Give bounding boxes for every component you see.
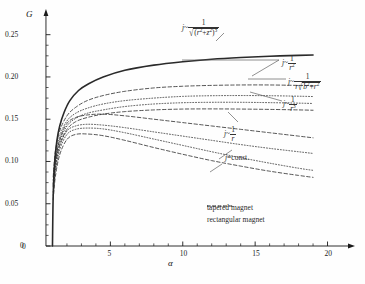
- curves-layer: [52, 55, 313, 246]
- fraction-denominator: r: [230, 135, 236, 143]
- axes-layer: [44, 9, 355, 248]
- chart-curve: [53, 128, 313, 195]
- x-tick-label: 5: [107, 249, 111, 258]
- chart-figure: G α j~ 1 √(r2+z2)3 j~ 1 r2 j~ 1 r√b2+r2 …: [0, 0, 365, 284]
- leader-line: [182, 60, 279, 76]
- y-tick-label: 0.25: [5, 30, 18, 39]
- legend-swatch-dotted: [207, 203, 233, 209]
- fraction-denominator: r2: [288, 64, 296, 72]
- legend-entry-rectangular: rectangular magnet: [207, 215, 265, 224]
- x-tick-label: 15: [252, 249, 260, 258]
- fraction: 1 r3: [289, 96, 297, 113]
- annotation-inv-r3: j~ 1 r3: [283, 96, 297, 113]
- legend: tapered magnet rectangular magnet: [207, 203, 265, 224]
- annotation-inv-r2: j~ 1 r2: [282, 55, 296, 72]
- annotation-inv-r-sqrt-b2r2: j~ 1 r√b2+r2: [288, 73, 321, 91]
- x-tick-label: 20: [325, 249, 333, 258]
- y-tick-label: 0.15: [5, 114, 18, 123]
- legend-label-rectangular: rectangular magnet: [207, 215, 265, 224]
- radical-sign: √: [298, 81, 302, 92]
- annotation-inv-sqrt-r2z2-cubed: j~ 1 √(r2+z2)3: [182, 19, 219, 37]
- chart-curve: [53, 96, 313, 181]
- radical-argument: b2+r2: [302, 82, 320, 91]
- chart-curve: [53, 134, 313, 200]
- chart-curve: [53, 114, 313, 185]
- fraction-denominator: √(r2+z2)3: [188, 28, 219, 37]
- fraction-denominator: r3: [289, 105, 297, 113]
- annotation-const: j=const.: [225, 153, 249, 162]
- fraction: 1 r2: [288, 55, 296, 72]
- radical-argument: (r2+z2)3: [193, 28, 218, 37]
- leader-line: [250, 92, 282, 101]
- y-tick-label: 0.10: [5, 156, 18, 165]
- y-tick-label: 0.20: [5, 72, 18, 81]
- chart-curve: [53, 109, 313, 187]
- x-axis-title: α: [168, 258, 173, 268]
- annotation-inv-r: j~ 1 r: [224, 126, 236, 143]
- leader-line: [210, 164, 222, 172]
- radical-sign: √: [189, 27, 193, 38]
- chart-curve: [52, 55, 313, 246]
- x-tick-label: 10: [180, 249, 188, 258]
- leader-line: [228, 112, 238, 122]
- y-tick-label: 0.05: [5, 199, 18, 208]
- fraction: 1 √(r2+z2)3: [188, 19, 219, 37]
- chart-canvas: [0, 0, 365, 284]
- fraction: 1 r: [230, 126, 236, 143]
- y-axis-title: G: [26, 9, 33, 19]
- x-tick-label: 0: [22, 242, 26, 251]
- leader-lines-layer: [182, 33, 286, 172]
- fraction: 1 r√b2+r2: [294, 73, 321, 91]
- symbol-const: const.: [231, 153, 249, 162]
- fraction-denominator: r√b2+r2: [294, 82, 321, 91]
